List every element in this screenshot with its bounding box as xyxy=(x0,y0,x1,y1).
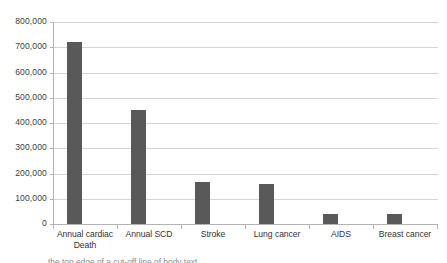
y-tick-label: 700,000 xyxy=(0,42,47,51)
x-axis-category-label: Annual SCD xyxy=(117,229,181,240)
x-axis-category-label: Lung cancer xyxy=(245,229,309,240)
x-axis-category-label: Stroke xyxy=(181,229,245,240)
y-tick-label: 600,000 xyxy=(0,68,47,77)
bar[interactable] xyxy=(259,184,274,224)
x-tickmark xyxy=(437,225,438,229)
bar-slot xyxy=(54,22,118,224)
y-tick-label: 800,000 xyxy=(0,17,47,26)
bar[interactable] xyxy=(131,110,146,224)
y-axis-labels: 800,000700,000600,000500,000400,000300,0… xyxy=(0,0,47,263)
bars-layer xyxy=(54,22,438,224)
bar[interactable] xyxy=(387,214,402,224)
bar-slot xyxy=(118,22,182,224)
caption-fragment: the top edge of a cut-off line of body t… xyxy=(48,257,447,263)
x-axis-category-label: Breast cancer xyxy=(373,229,437,240)
bar-slot xyxy=(246,22,310,224)
bar[interactable] xyxy=(67,42,82,224)
y-tick-label: 300,000 xyxy=(0,143,47,152)
x-axis-labels: Annual cardiac DeathAnnual SCDStrokeLung… xyxy=(53,225,437,259)
plot-area xyxy=(53,22,437,224)
bar-slot xyxy=(374,22,438,224)
y-tick-label: 200,000 xyxy=(0,169,47,178)
bar-slot xyxy=(310,22,374,224)
bar[interactable] xyxy=(195,182,210,224)
y-tick-label: 0 xyxy=(0,219,47,228)
y-tick-label: 100,000 xyxy=(0,194,47,203)
y-tick-label: 500,000 xyxy=(0,93,47,102)
x-axis-category-label: Annual cardiac Death xyxy=(53,229,117,250)
y-tick-label: 400,000 xyxy=(0,118,47,127)
bar-slot xyxy=(182,22,246,224)
bar[interactable] xyxy=(323,214,338,224)
x-axis-category-label: AIDS xyxy=(309,229,373,240)
bar-chart: 800,000700,000600,000500,000400,000300,0… xyxy=(0,0,447,263)
